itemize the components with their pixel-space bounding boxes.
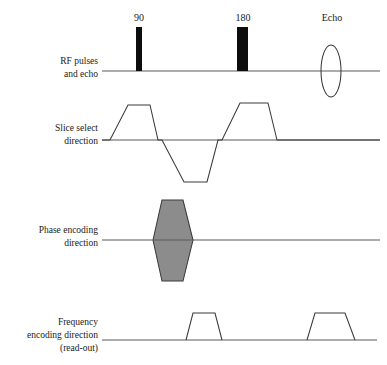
slice-select-waveform (102, 103, 380, 182)
frequency-dephasing-trapezoid (186, 313, 222, 340)
rf-pulse-90-bar (136, 27, 142, 71)
frequency-readout-trapezoid (307, 313, 355, 340)
row-label-frequency-line1: Frequency (58, 317, 98, 327)
rf-pulse-90: 90 (134, 12, 144, 71)
row-label-phase-line2: direction (64, 238, 98, 248)
rf-pulse-180-label: 180 (236, 12, 251, 23)
row-label-phase-line1: Phase encoding (39, 225, 99, 235)
sequence-diagram-canvas: RF pulses and echo 90 180 Echo Slice sel… (0, 0, 387, 365)
rf-pulse-180-bar (237, 27, 248, 71)
row-label-frequency-line2: encoding direction (27, 330, 98, 340)
row-slice-select-direction: Slice select direction (55, 103, 380, 182)
row-label-slice-line2: direction (64, 136, 98, 146)
echo-signal: Echo (321, 12, 342, 97)
row-label-frequency-line3: (read-out) (60, 343, 98, 354)
echo-label: Echo (322, 12, 343, 23)
row-rf-pulses-and-echo: RF pulses and echo 90 180 Echo (60, 12, 380, 97)
rf-pulse-180: 180 (236, 12, 251, 71)
row-frequency-encoding-direction: Frequency encoding direction (read-out) (27, 313, 377, 354)
rf-pulse-90-label: 90 (134, 12, 144, 23)
row-label-rf-line2: and echo (64, 69, 98, 79)
row-phase-encoding-direction: Phase encoding direction (39, 200, 380, 281)
pulse-sequence-diagram: RF pulses and echo 90 180 Echo Slice sel… (0, 0, 387, 365)
row-label-slice-line1: Slice select (55, 123, 98, 133)
row-label-rf-line1: RF pulses (60, 56, 98, 66)
